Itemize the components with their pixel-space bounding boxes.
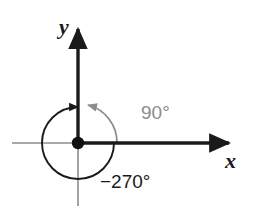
positive-angle-label: 90°: [141, 102, 170, 123]
y-axis-label: y: [56, 14, 69, 39]
x-axis-label: x: [224, 148, 236, 173]
angle-diagram-figure: y x 90° −270°: [0, 0, 254, 215]
negative-angle-label: −270°: [100, 171, 150, 192]
origin-point: [72, 137, 84, 149]
positive-angle-arc: [88, 105, 117, 143]
figure-canvas: y x 90° −270°: [0, 0, 254, 215]
